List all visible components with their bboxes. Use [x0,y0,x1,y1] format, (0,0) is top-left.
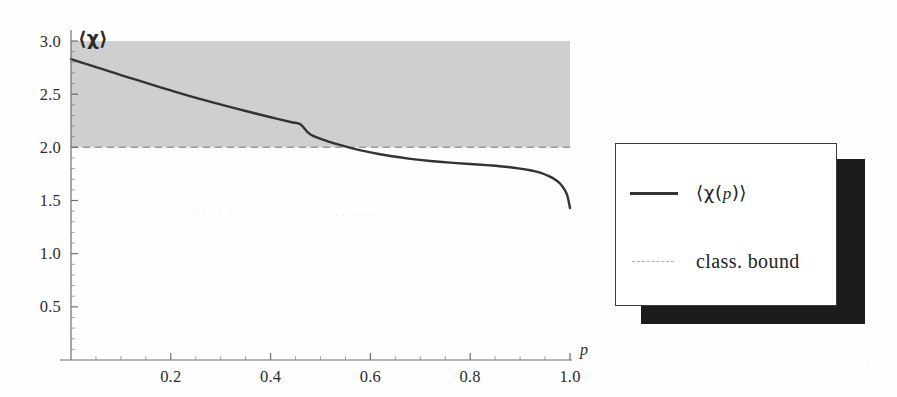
y-tick-label: 2.0 [40,138,61,157]
x-axis-label: p [579,341,588,359]
chart-figure: 0.51.01.52.02.53.00.20.40.60.81.0 ⟨χ⟩ p [0,0,600,397]
y-tick-label: 0.5 [40,297,61,316]
y-tick-label: 2.5 [40,85,61,104]
y-axis-label: ⟨χ⟩ [78,27,108,49]
x-tick-label: 0.2 [160,367,181,386]
shaded-region-quantum-violation [71,41,570,147]
solid-line-swatch [628,184,684,202]
x-tick-label: 1.0 [559,367,580,386]
legend-box: ⟨χ(p)⟩ class. bound [615,143,837,306]
legend-label-variable: p [723,184,732,203]
legend-entry-class-bound: class. bound [616,248,836,274]
y-tick-label: 1.0 [40,244,61,263]
plot-canvas: 0.51.01.52.02.53.00.20.40.60.81.0 ⟨χ⟩ p [0,0,600,397]
x-tick-label: 0.8 [460,367,481,386]
legend-entry-chi-of-p: ⟨χ(p)⟩ [616,180,836,206]
y-tick-label: 1.5 [40,191,61,210]
chart-legend: ⟨χ(p)⟩ class. bound [615,143,839,308]
dashed-line-swatch [628,252,684,270]
x-tick-label: 0.6 [360,367,381,386]
legend-label-class-bound: class. bound [696,250,800,273]
legend-label-chi-of-p: ⟨χ(p)⟩ [696,182,747,204]
legend-label-prefix: ⟨χ( [696,182,723,203]
legend-label-suffix: )⟩ [732,182,747,203]
y-tick-label: 3.0 [40,32,61,51]
x-tick-label: 0.4 [260,367,281,386]
